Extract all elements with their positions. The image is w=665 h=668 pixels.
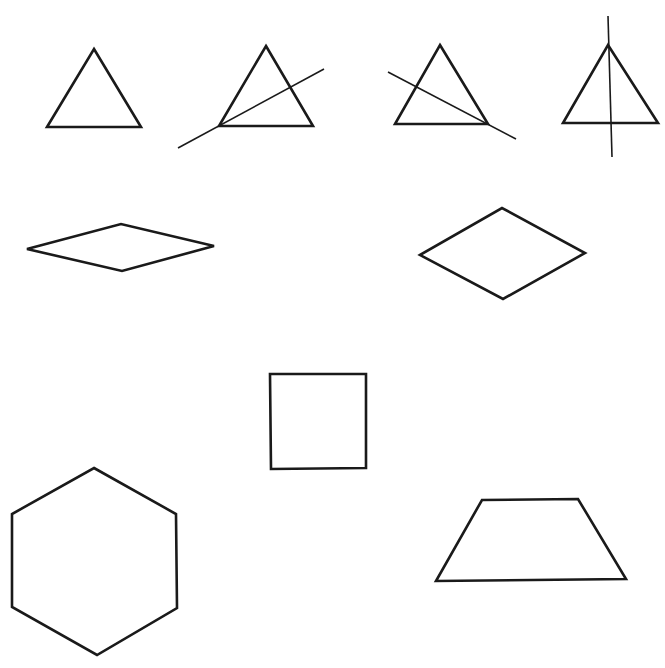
background bbox=[0, 0, 665, 668]
shapes-diagram bbox=[0, 0, 665, 668]
